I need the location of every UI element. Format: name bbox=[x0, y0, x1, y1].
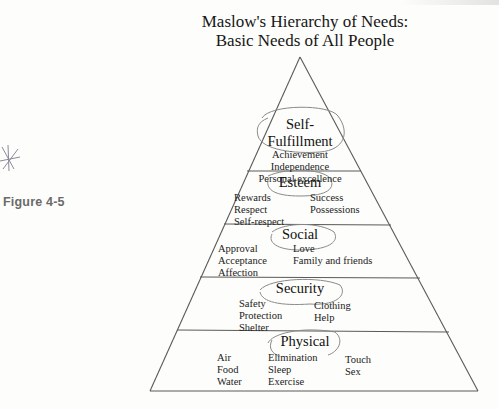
need-item: Family and friends bbox=[293, 255, 372, 267]
security-items-left: Safety Protection Shelter bbox=[239, 298, 282, 334]
need-item: Independence bbox=[230, 161, 370, 173]
level-title-line-1: Self- bbox=[240, 116, 360, 133]
need-item: Elimination bbox=[268, 352, 318, 364]
security-items-right: Clothing Help bbox=[314, 300, 351, 324]
need-item: Success bbox=[310, 192, 360, 204]
level-title-self-fulfillment: Self- Fulfillment bbox=[240, 116, 360, 150]
social-items-left: Approval Acceptance Affection bbox=[218, 243, 267, 279]
level-title-social: Social bbox=[265, 226, 335, 243]
need-item: Safety bbox=[239, 298, 282, 310]
need-item: Water bbox=[217, 376, 242, 388]
need-item: Sex bbox=[345, 366, 371, 378]
need-item: Love bbox=[293, 243, 372, 255]
level-title-line-2: Fulfillment bbox=[240, 133, 360, 150]
need-item: Touch bbox=[345, 354, 371, 366]
need-item: Clothing bbox=[314, 300, 351, 312]
need-item: Affection bbox=[218, 267, 267, 279]
esteem-items-left: Rewards Respect Self-respect bbox=[234, 192, 284, 228]
need-item: Approval bbox=[218, 243, 267, 255]
need-item: Achievement bbox=[230, 149, 370, 161]
need-item: Food bbox=[217, 364, 242, 376]
social-items-right: Love Family and friends bbox=[293, 243, 372, 267]
need-item: Sleep bbox=[268, 364, 318, 376]
need-item: Help bbox=[314, 312, 351, 324]
need-item: Exercise bbox=[268, 376, 318, 388]
textbook-page: Maslow's Hierarchy of Needs: Basic Needs… bbox=[0, 0, 499, 409]
need-item: Protection bbox=[239, 310, 282, 322]
need-item: Rewards bbox=[234, 192, 284, 204]
esteem-items-right: Success Possessions bbox=[310, 192, 360, 216]
need-item: Possessions bbox=[310, 204, 360, 216]
physical-items-col-2: Elimination Sleep Exercise bbox=[268, 352, 318, 388]
physical-items-col-3: Touch Sex bbox=[345, 354, 371, 378]
need-item: Acceptance bbox=[218, 255, 267, 267]
need-item: Air bbox=[217, 352, 242, 364]
level-title-esteem: Esteem bbox=[260, 174, 340, 191]
need-item: Respect bbox=[234, 204, 284, 216]
level-title-security: Security bbox=[260, 280, 340, 297]
level-title-physical: Physical bbox=[265, 333, 345, 350]
physical-items-col-1: Air Food Water bbox=[217, 352, 242, 388]
